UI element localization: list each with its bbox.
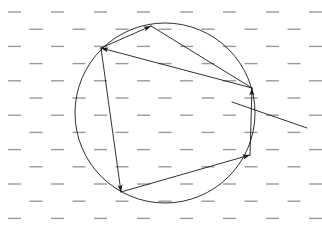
diagram-svg <box>0 0 322 231</box>
chord-b-to-c <box>101 48 121 192</box>
main-circle-layer <box>75 23 255 203</box>
secant-line-layer <box>232 102 307 128</box>
dashed-hatch-field <box>0 12 322 218</box>
chord-c-to-d <box>121 155 250 192</box>
chord-e-to-b <box>101 48 252 88</box>
diagram-canvas <box>0 0 322 231</box>
main-circle <box>75 23 255 203</box>
chord-a-to-e <box>151 26 252 88</box>
secant-line <box>232 102 307 128</box>
